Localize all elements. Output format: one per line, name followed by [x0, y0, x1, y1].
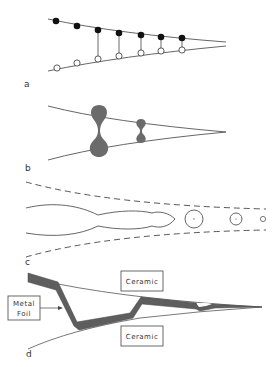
panel-c: c: [25, 182, 266, 267]
diagram-canvas: a b c Ceramic Ceramic Metal Foil: [0, 0, 279, 367]
lower-dashed-boundary: [26, 230, 266, 257]
panel-label-c: c: [25, 257, 30, 267]
upper-surface-line: [48, 106, 226, 132]
panel-label-d: d: [26, 349, 32, 359]
ceramic-bottom-label: Ceramic: [126, 333, 158, 341]
small-liquid-bridge: [136, 119, 145, 143]
lower-surface-line: [48, 132, 226, 160]
metal-foil-label-line1: Metal: [13, 300, 35, 308]
panel-label-b: b: [25, 163, 31, 173]
small-pore: [260, 216, 265, 221]
panel-d: Ceramic Ceramic Metal Foil d: [8, 271, 262, 359]
open-atoms: [54, 47, 185, 71]
panel-label-a: a: [24, 79, 30, 89]
upper-boundary-line: [48, 19, 226, 42]
lower-boundary-line: [48, 46, 226, 71]
large-liquid-bridge: [90, 105, 108, 157]
ceramic-top-label: Ceramic: [126, 278, 158, 286]
metal-foil-label-line2: Foil: [17, 310, 31, 318]
large-pore-center: [193, 218, 194, 219]
elongated-cavity: [26, 205, 175, 236]
panel-a: a: [24, 18, 226, 89]
arrow-head-icon: [58, 306, 63, 310]
medium-pore-center: [235, 218, 236, 219]
panel-b: b: [25, 105, 226, 173]
